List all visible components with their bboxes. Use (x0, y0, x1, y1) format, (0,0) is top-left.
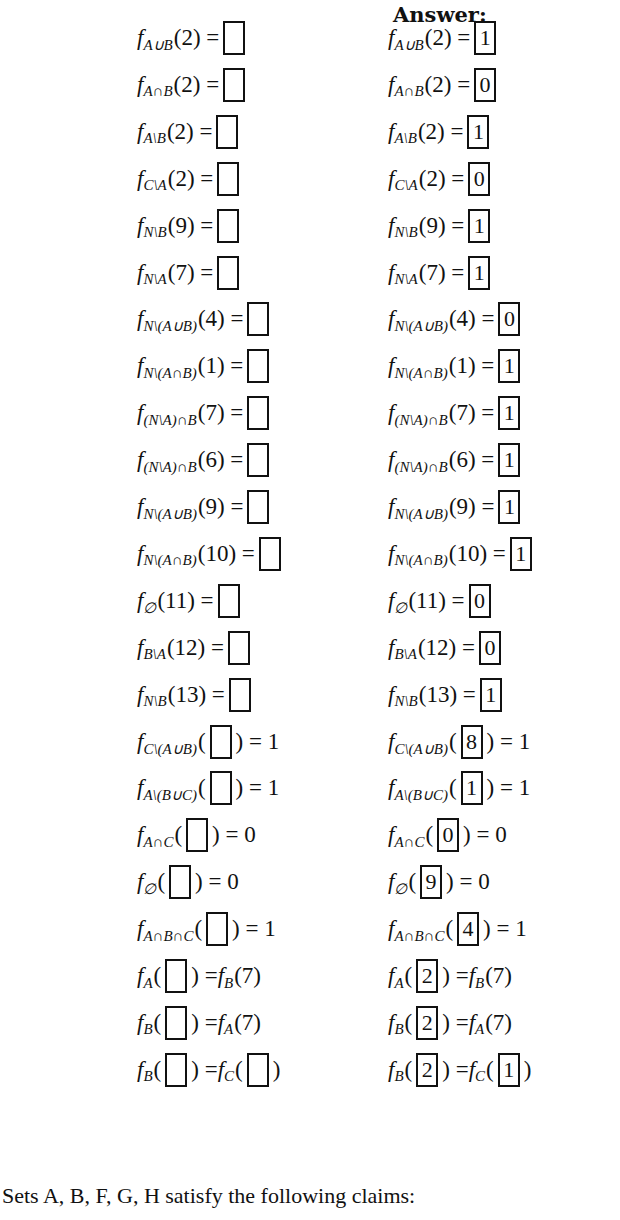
equation-row: fN\B(9) = (137, 206, 243, 246)
answer-box[interactable] (165, 959, 187, 993)
answer-box[interactable] (218, 584, 240, 618)
equation-row: f(N\A)∩B(7) = 1 (388, 393, 524, 433)
answer-box[interactable]: 1 (480, 678, 502, 712)
equation-row: fN\B(13) = (137, 675, 255, 715)
equation-row: fA() = fB(7) (137, 956, 261, 996)
answer-box[interactable]: 9 (420, 865, 442, 899)
equation-row: fB() = fA(7) (137, 1003, 261, 1043)
answer-box[interactable] (229, 678, 251, 712)
answer-box[interactable]: 2 (416, 1053, 438, 1087)
answer-box[interactable]: 0 (468, 162, 490, 196)
equation-row: fN\(A∩B)(10) = (137, 534, 285, 574)
equation-row: fC\(A∪B)(8) = 1 (388, 722, 530, 762)
answer-box[interactable] (165, 1053, 187, 1087)
equation-row: fN\(A∪B)(4) = 0 (388, 299, 524, 339)
equation-row: fB\A(12) = (137, 628, 254, 668)
equation-row: fN\A(7) = (137, 253, 243, 293)
equation-row: fA∩B(2) = (137, 65, 249, 105)
equation-row: fA\B(2) = (137, 112, 242, 152)
equation-row: fB(2) = fC(1) (388, 1050, 531, 1090)
equation-row: fN\(A∩B)(1) = 1 (388, 346, 524, 386)
equation-row: fC\(A∪B)() = 1 (137, 722, 279, 762)
answer-box[interactable]: 0 (498, 302, 520, 336)
answer-box[interactable]: 0 (479, 631, 501, 665)
answer-box[interactable] (216, 115, 238, 149)
answer-box[interactable]: 1 (468, 256, 490, 290)
answer-box[interactable]: 1 (467, 115, 489, 149)
equation-row: fA\(B∪C)(1) = 1 (388, 768, 530, 808)
equation-row: fN\(A∪B)(9) = (137, 487, 273, 527)
equation-row: f∅(9) = 0 (388, 862, 490, 902)
answer-box[interactable]: 4 (457, 912, 479, 946)
answer-box[interactable] (165, 1006, 187, 1040)
answer-box[interactable] (217, 209, 239, 243)
equation-row: fA∩B(2) = 0 (388, 65, 500, 105)
answer-box[interactable]: 1 (498, 490, 520, 524)
equation-row: fB(2) = fA(7) (388, 1003, 512, 1043)
answer-box[interactable]: 1 (498, 1053, 520, 1087)
equation-row: fA∩B∩C() = 1 (137, 909, 276, 949)
answer-box[interactable] (210, 771, 232, 805)
equation-row: f∅(11) = 0 (388, 581, 495, 621)
answer-box[interactable] (247, 302, 269, 336)
answer-box[interactable]: 2 (416, 959, 438, 993)
answer-box[interactable]: 1 (498, 443, 520, 477)
equation-row: fC\A(2) = 0 (388, 159, 494, 199)
answer-box[interactable]: 1 (498, 396, 520, 430)
answer-box[interactable]: 2 (416, 1006, 438, 1040)
answer-box[interactable]: 8 (461, 725, 483, 759)
answer-box[interactable]: 1 (474, 21, 496, 55)
footer-text: Sets A, B, F, G, H satisfy the following… (2, 1183, 415, 1209)
answer-box[interactable]: 0 (437, 818, 459, 852)
answer-box[interactable] (210, 725, 232, 759)
answer-box[interactable] (247, 396, 269, 430)
answer-box[interactable] (247, 443, 269, 477)
equation-row: fA∩C() = 0 (137, 815, 256, 855)
equation-row: f(N\A)∩B(7) = (137, 393, 273, 433)
answer-box[interactable] (217, 256, 239, 290)
equation-row: fN\(A∩B)(1) = (137, 346, 273, 386)
equation-row: fC\A(2) = (137, 159, 243, 199)
answer-box[interactable]: 0 (474, 68, 496, 102)
answer-box[interactable] (223, 21, 245, 55)
equation-row: fN\B(13) = 1 (388, 675, 506, 715)
equation-row: fN\B(9) = 1 (388, 206, 494, 246)
answer-box[interactable]: 1 (498, 349, 520, 383)
answer-box[interactable] (186, 818, 208, 852)
equation-row: f∅(11) = (137, 581, 244, 621)
answer-box[interactable] (228, 631, 250, 665)
answer-box[interactable]: 1 (510, 537, 532, 571)
equation-row: fN\A(7) = 1 (388, 253, 494, 293)
equation-row: fA∪B(2) = (137, 18, 249, 58)
answer-box[interactable] (223, 68, 245, 102)
equation-row: fA∩B∩C(4) = 1 (388, 909, 527, 949)
equation-row: fA\(B∪C)() = 1 (137, 768, 279, 808)
answer-box[interactable] (217, 162, 239, 196)
answer-box[interactable] (169, 865, 191, 899)
answer-box[interactable]: 0 (469, 584, 491, 618)
equation-row: fN\(A∩B)(10) = 1 (388, 534, 536, 574)
equation-row: f∅() = 0 (137, 862, 239, 902)
equation-row: f(N\A)∩B(6) = (137, 440, 273, 480)
answer-box[interactable]: 1 (468, 209, 490, 243)
equation-row: fN\(A∪B)(9) = 1 (388, 487, 524, 527)
equation-row: fA∩C(0) = 0 (388, 815, 507, 855)
equation-row: fA\B(2) = 1 (388, 112, 493, 152)
equation-row: fN\(A∪B)(4) = (137, 299, 273, 339)
equation-row: fB\A(12) = 0 (388, 628, 505, 668)
answer-box[interactable] (247, 490, 269, 524)
answer-box[interactable] (206, 912, 228, 946)
answer-box[interactable] (247, 1053, 269, 1087)
equation-row: fA∪B(2) = 1 (388, 18, 500, 58)
equation-row: fB() = fC() (137, 1050, 280, 1090)
answer-box[interactable] (259, 537, 281, 571)
equation-row: fA(2) = fB(7) (388, 956, 512, 996)
answer-box[interactable]: 1 (461, 771, 483, 805)
answer-box[interactable] (247, 349, 269, 383)
equation-row: f(N\A)∩B(6) = 1 (388, 440, 524, 480)
